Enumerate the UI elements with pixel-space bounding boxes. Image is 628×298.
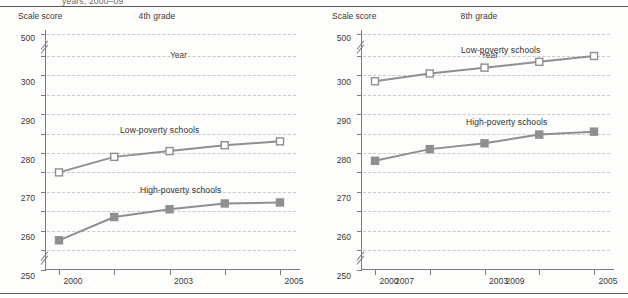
y-axis-tick-label: 290 <box>21 117 35 126</box>
data-point-marker <box>481 140 488 147</box>
data-point-marker <box>426 70 433 77</box>
x-axis-tick-label: 2005 <box>599 276 618 286</box>
y-axis-tick-label: 290 <box>337 117 351 126</box>
data-point-marker <box>166 148 173 155</box>
y-axis-tick-label: 500 <box>21 34 35 43</box>
x-axis-tick-label: 2003 <box>489 276 508 286</box>
y-axis-tick: 0 <box>41 270 46 271</box>
data-point-marker <box>111 214 118 221</box>
data-point-marker <box>277 199 284 206</box>
x-axis-tick: 2000 <box>375 270 376 275</box>
y-axis-tick-label: 250 <box>21 272 35 281</box>
data-point-marker <box>426 146 433 153</box>
x-axis-tick: 2003 <box>114 270 115 275</box>
y-axis-tick-label: 500 <box>337 34 351 43</box>
x-axis-tick-label: 2000 <box>64 276 83 286</box>
data-point-marker <box>56 237 63 244</box>
data-point-marker <box>277 138 284 145</box>
y-axis-tick-label: 300 <box>337 78 351 87</box>
clipped-figure-header: years, 2000–09 <box>62 0 123 6</box>
chart-panel-8th-grade: 8th grade Scale score Year 5003002902802… <box>314 8 628 290</box>
data-point-marker <box>481 64 488 71</box>
figure-top-rule <box>0 6 628 7</box>
x-axis-tick: 2000 <box>59 270 60 275</box>
y-axis-title-left: Scale score <box>18 11 62 21</box>
x-axis-tick: 2003 <box>430 270 431 275</box>
figure-container: years, 2000–09 4th grade Scale score Yea… <box>0 0 628 298</box>
y-axis-tick-label: 280 <box>21 155 35 164</box>
y-axis-tick-label: 270 <box>21 194 35 203</box>
series-annotation-label: Low-poverty schools <box>461 45 540 55</box>
y-axis-tick: 0 <box>357 270 362 271</box>
series-layer <box>45 30 292 270</box>
plot-area-8th-grade: Year 50030029028027026025024023022021020… <box>361 30 606 270</box>
y-axis-tick-label: 260 <box>21 233 35 242</box>
data-point-marker <box>221 200 228 207</box>
y-axis-tick-label: 280 <box>337 155 351 164</box>
data-point-marker <box>536 58 543 65</box>
x-axis-tick: 2007 <box>225 270 226 275</box>
y-axis-tick-label: 260 <box>337 233 351 242</box>
series-annotation-label: High-poverty schools <box>466 117 547 127</box>
plot-area-4th-grade: Year 50030029028027026025024023022021020… <box>45 30 292 270</box>
x-axis-tick-label: 2005 <box>285 276 304 286</box>
data-point-marker <box>372 157 379 164</box>
data-point-marker <box>221 142 228 149</box>
x-axis-tick: 2005 <box>485 270 486 275</box>
data-point-marker <box>591 53 598 60</box>
data-point-marker <box>111 153 118 160</box>
y-axis-tick-label: 300 <box>21 78 35 87</box>
data-point-marker <box>372 78 379 85</box>
series-annotation-label: High-poverty schools <box>140 185 221 195</box>
x-axis-tick-label: 2003 <box>174 276 193 286</box>
chart-panel-4th-grade: 4th grade Scale score Year 5003002902802… <box>0 8 314 290</box>
data-point-marker <box>166 206 173 213</box>
x-axis-tick: 2005 <box>170 270 171 275</box>
x-axis-tick: 2009 <box>594 270 595 275</box>
y-axis-tick-label: 250 <box>337 272 351 281</box>
y-axis-tick-label: 270 <box>337 194 351 203</box>
series-line <box>59 141 280 172</box>
data-point-marker <box>56 169 63 176</box>
data-point-marker <box>591 128 598 135</box>
data-point-marker <box>536 131 543 138</box>
x-axis-tick-label: 2000 <box>380 276 399 286</box>
series-layer <box>361 30 606 270</box>
x-axis-tick: 2009 <box>280 270 281 275</box>
y-axis-title-right: Scale score <box>332 11 376 21</box>
figure-bottom-rule <box>0 293 628 294</box>
x-axis-tick: 2007 <box>539 270 540 275</box>
series-annotation-label: Low-poverty schools <box>120 125 199 135</box>
